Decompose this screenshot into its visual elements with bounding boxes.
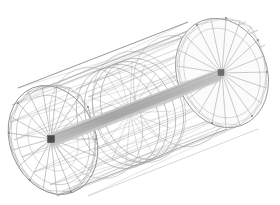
right-hub-node [218,70,224,76]
left-hub-node [48,136,55,143]
wireframe-drawing-canvas [0,0,280,205]
figure-root [0,0,280,205]
